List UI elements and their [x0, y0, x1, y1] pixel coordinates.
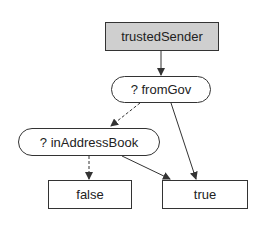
edge-inaddressbook-to-true [122, 156, 170, 179]
node-label: false [76, 187, 103, 202]
node-from-gov: ? fromGov [111, 76, 211, 103]
edge-fromgov-to-inaddressbook [111, 103, 140, 126]
node-label: true [194, 187, 216, 202]
node-trusted-sender: trustedSender [105, 22, 219, 51]
node-label: ? fromGov [131, 82, 192, 97]
node-label: ? inAddressBook [40, 135, 138, 150]
node-true: true [162, 180, 248, 209]
node-false: false [48, 180, 132, 209]
edge-fromgov-to-true [171, 103, 196, 179]
node-in-address-book: ? inAddressBook [18, 128, 160, 156]
node-label: trustedSender [121, 29, 203, 44]
